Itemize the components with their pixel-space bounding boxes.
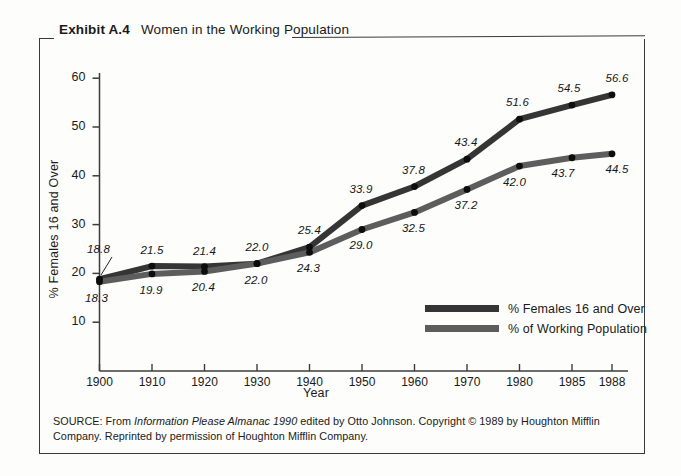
data-label-working-population: 37.2 xyxy=(451,199,481,211)
chart-legend: % Females 16 and Over % of Working Popul… xyxy=(425,300,647,340)
exhibit-page: Exhibit A.4Women in the Working Populati… xyxy=(0,0,681,476)
exhibit-frame xyxy=(39,39,645,454)
data-label-females: 21.5 xyxy=(137,244,167,256)
x-tick-label: 1985 xyxy=(553,375,591,389)
data-label-working-population: 43.7 xyxy=(548,167,578,179)
data-label-females: 21.4 xyxy=(190,245,220,257)
data-label-females: 54.5 xyxy=(554,82,584,94)
data-label-females: 25.4 xyxy=(295,224,325,236)
legend-label-working-population: % of Working Population xyxy=(508,322,647,336)
data-label-females: 33.9 xyxy=(346,183,376,195)
legend-swatch-working-population xyxy=(425,325,499,332)
x-tick-label: 1950 xyxy=(343,375,381,389)
x-tick-label: 1988 xyxy=(593,375,631,389)
x-tick-label: 1910 xyxy=(133,375,171,389)
x-tick-label: 1980 xyxy=(501,375,539,389)
y-tick-label: 60 xyxy=(60,70,86,84)
source-italic-title: Information Please Almanac 1990 xyxy=(134,415,297,427)
legend-item-females: % Females 16 and Over xyxy=(425,300,647,317)
data-label-females: 43.4 xyxy=(451,136,481,148)
data-label-females: 22.0 xyxy=(242,241,272,253)
y-tick-label: 10 xyxy=(60,314,86,328)
legend-item-working-population: % of Working Population xyxy=(425,320,647,337)
data-label-working-population: 32.5 xyxy=(399,222,429,234)
x-tick-label: 1940 xyxy=(291,375,329,389)
data-label-working-population: 44.5 xyxy=(602,163,632,175)
x-tick-label: 1900 xyxy=(81,375,119,389)
y-tick-label: 40 xyxy=(60,168,86,182)
data-label-working-population: 18.3 xyxy=(82,292,112,304)
x-tick-label: 1960 xyxy=(396,375,434,389)
data-label-working-population: 20.4 xyxy=(189,281,219,293)
data-label-females: 37.8 xyxy=(399,164,429,176)
exhibit-label: Exhibit A.4 xyxy=(59,22,130,37)
data-label-working-population: 24.3 xyxy=(294,262,324,274)
source-note: SOURCE: From Information Please Almanac … xyxy=(53,414,613,443)
legend-label-females: % Females 16 and Over xyxy=(508,302,645,316)
y-tick-label: 50 xyxy=(60,119,86,133)
x-tick-label: 1920 xyxy=(186,375,224,389)
source-prefix: SOURCE: From xyxy=(53,415,134,427)
y-tick-label: 30 xyxy=(60,217,86,231)
data-label-females: 56.6 xyxy=(602,72,632,84)
legend-swatch-females xyxy=(425,305,499,312)
x-tick-label: 1970 xyxy=(448,375,486,389)
data-label-females: 18.8 xyxy=(84,243,114,255)
data-label-working-population: 42.0 xyxy=(500,176,530,188)
data-label-working-population: 19.9 xyxy=(136,284,166,296)
data-label-working-population: 29.0 xyxy=(346,239,376,251)
data-label-working-population: 22.0 xyxy=(241,274,271,286)
data-label-females: 51.6 xyxy=(503,96,533,108)
x-tick-label: 1930 xyxy=(238,375,276,389)
y-tick-label: 20 xyxy=(60,265,86,279)
page-title: Exhibit A.4Women in the Working Populati… xyxy=(59,22,349,37)
exhibit-title: Women in the Working Population xyxy=(141,22,349,37)
